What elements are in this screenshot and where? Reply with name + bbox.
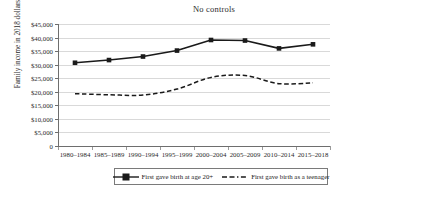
legend-item-age20plus[interactable]: First gave birth at age 20+	[113, 173, 214, 181]
y-tick-label: 0	[50, 143, 53, 150]
x-tick-label: 1995–1999	[162, 151, 193, 158]
x-tick-label: 1990–1994	[128, 151, 159, 158]
series-layer	[58, 24, 330, 146]
x-tick-label: 2010–2014	[264, 151, 295, 158]
data-point-marker	[311, 42, 316, 47]
x-axis-line	[58, 146, 330, 147]
x-tick-label: 2000–2004	[196, 151, 227, 158]
data-point-marker	[209, 38, 214, 43]
chart-container: No controls Family income in 2018 dollar…	[0, 0, 428, 198]
chart-legend: First gave birth at age 20+ First gave b…	[114, 168, 328, 185]
x-tick-label: 2005–2009	[230, 151, 261, 158]
y-tick-label: $40,000	[31, 34, 53, 41]
x-tick	[330, 146, 331, 150]
data-point-marker	[141, 54, 146, 59]
y-tick-label: $45,000	[31, 21, 53, 28]
y-axis-title: Family income in 2018 dollars	[14, 0, 22, 109]
legend-swatch-solid-square-icon	[113, 173, 139, 181]
y-tick-label: $35,000	[31, 48, 53, 55]
plot-area: 0$5,000$10,000$15,000$20,000$25,000$30,0…	[58, 24, 330, 146]
y-tick-label: $20,000	[31, 88, 53, 95]
y-tick-label: $30,000	[31, 61, 53, 68]
x-tick-label: 1985–1989	[94, 151, 125, 158]
y-tick-label: $25,000	[31, 75, 53, 82]
legend-label: First gave birth at age 20+	[142, 173, 214, 180]
x-tick-label: 2015–2018	[298, 151, 329, 158]
x-tick-label: 1980–1984	[60, 151, 91, 158]
data-point-marker	[73, 60, 78, 65]
data-point-marker	[175, 48, 180, 53]
plot-inner: 0$5,000$10,000$15,000$20,000$25,000$30,0…	[58, 24, 330, 146]
data-point-marker	[243, 38, 248, 43]
legend-item-teenager[interactable]: First gave birth as a teenager	[222, 173, 329, 181]
legend-label: First gave birth as a teenager	[251, 173, 329, 180]
data-point-marker	[107, 58, 112, 63]
chart-title: No controls	[0, 4, 428, 14]
y-tick-label: $5,000	[34, 129, 53, 136]
series-line-1	[75, 75, 313, 95]
y-tick-label: $10,000	[31, 115, 53, 122]
data-point-marker	[277, 46, 282, 51]
legend-swatch-dashed-icon	[222, 173, 248, 181]
y-tick-label: $15,000	[31, 102, 53, 109]
